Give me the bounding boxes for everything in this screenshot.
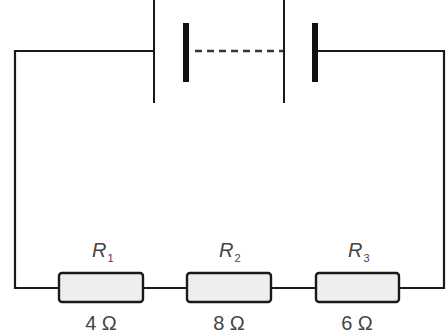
circuit-diagram: R1 4 Ω R2 8 Ω R3 6 Ω <box>0 0 448 336</box>
resistor-r3-body <box>316 273 399 302</box>
resistor-r2: R2 8 Ω <box>187 239 271 334</box>
resistor-r1-subscript: 1 <box>107 252 113 264</box>
resistor-r2-subscript: 2 <box>234 252 240 264</box>
wire-right <box>315 51 444 288</box>
resistor-r1-value: 4 Ω <box>85 312 117 334</box>
resistor-r3: R3 6 Ω <box>316 239 399 334</box>
wire-left <box>15 51 154 288</box>
resistor-r3-subscript: 3 <box>363 252 369 264</box>
resistor-r1-label: R1 <box>92 239 114 264</box>
resistor-r3-value: 6 Ω <box>341 312 373 334</box>
resistor-r1-body <box>59 273 143 302</box>
resistor-r2-value: 8 Ω <box>213 312 245 334</box>
resistor-r3-label: R3 <box>348 239 370 264</box>
resistor-r2-label: R2 <box>219 239 241 264</box>
resistor-r2-body <box>187 273 271 302</box>
resistor-r1: R1 4 Ω <box>59 239 143 334</box>
